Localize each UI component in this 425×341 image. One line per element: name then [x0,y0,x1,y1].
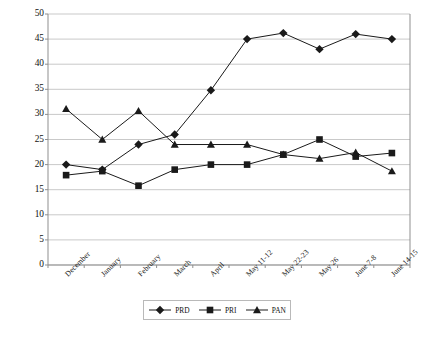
x-axis-tick-labels: DecemberJanuaryFebruaryMarchAprilMay 11-… [0,0,425,341]
chart-legend: PRDPRIPAN [143,300,291,320]
x-tick-label: April [208,260,226,278]
legend-item-prd: PRD [148,304,189,316]
x-tick-label: December [63,249,92,278]
marker-square [207,307,214,314]
x-tick-label: May 26 [317,255,340,278]
x-tick-label: May 22-23 [280,248,311,279]
x-tick-label: March [172,258,193,279]
legend-item-pan: PAN [245,304,286,316]
legend-marker-triangle-icon [245,304,269,316]
x-tick-label: June 7-8 [353,253,378,278]
legend-label: PRD [175,306,189,315]
marker-diamond [156,306,164,314]
legend-label: PAN [272,306,286,315]
legend-label: PRI [225,306,237,315]
legend-marker-square-icon [198,304,222,316]
x-tick-label: February [136,252,162,278]
legend-marker-diamond-icon [148,304,172,316]
line-chart: Voter Preferences 50454035302520151050 D… [0,0,425,341]
legend-item-pri: PRI [198,304,237,316]
x-tick-label: January [99,255,123,279]
x-tick-label: June 14-15 [389,248,420,279]
x-tick-label: May 11-12 [244,248,275,279]
